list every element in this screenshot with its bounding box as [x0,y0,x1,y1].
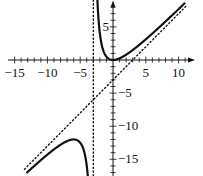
x-axis-arrow-icon [188,58,195,63]
y-tick-label: −5 [118,85,132,100]
x-tick-label: 10 [172,65,185,80]
x-tick-label: −15 [4,65,24,80]
function-plot: −15−10−55105−5−10−15 [0,0,203,176]
y-axis-arrow-icon [111,0,116,7]
x-tick-label: −5 [73,65,87,80]
tick-labels: −15−10−55105−5−10−15 [4,19,185,166]
y-tick-label: −15 [118,151,138,166]
x-tick-label: −10 [37,65,57,80]
y-tick-label: 5 [103,19,110,34]
x-tick-label: 5 [143,65,150,80]
right-branch-curve [97,0,185,60]
y-tick-label: −10 [118,118,138,133]
